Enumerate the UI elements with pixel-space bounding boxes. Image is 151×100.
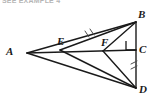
segment-A-B (27, 22, 136, 53)
vertex-label-C: C (139, 44, 146, 55)
segment-E-B (60, 22, 136, 50)
segment-E-D (60, 50, 136, 88)
vertex-label-E: E (57, 36, 64, 47)
geometry-figure (0, 0, 151, 100)
vertex-label-A: A (6, 46, 13, 57)
vertex-label-F: F (101, 37, 108, 48)
segment-A-C (27, 50, 136, 53)
vertex-label-B: B (138, 9, 145, 20)
right-angle-marker-at-C (126, 41, 136, 50)
vertex-label-D: D (139, 84, 147, 95)
diagram-page: SEE EXAMPLE 4 A (0, 0, 151, 100)
